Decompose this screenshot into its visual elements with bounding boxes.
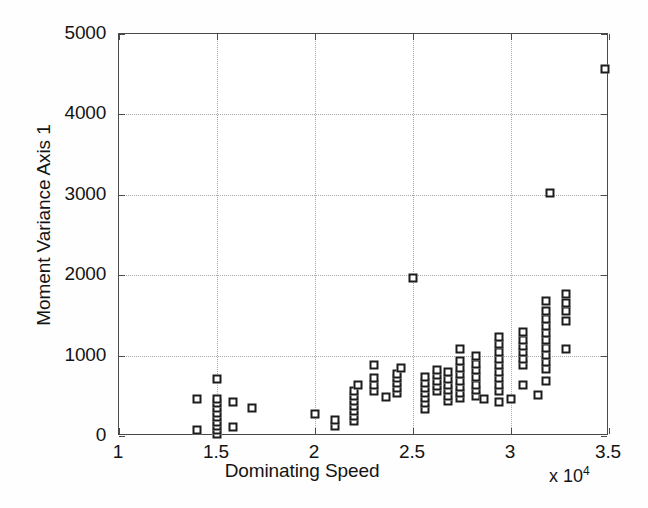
x-axis-tick — [413, 428, 414, 434]
data-point-marker — [213, 374, 222, 383]
data-point-marker — [471, 351, 480, 360]
data-point-marker — [193, 425, 202, 434]
data-point-marker — [479, 395, 488, 404]
x-axis-tick — [315, 34, 316, 40]
x-axis-tick — [511, 34, 512, 40]
y-axis-tick-label: 4000 — [0, 102, 106, 124]
data-point-marker — [248, 403, 257, 412]
data-point-marker — [561, 317, 570, 326]
data-point-marker — [456, 345, 465, 354]
y-axis-tick — [119, 275, 125, 276]
gridline-horizontal — [119, 275, 607, 276]
y-axis-tick — [119, 34, 125, 35]
data-point-marker — [330, 415, 339, 424]
data-point-marker — [369, 361, 378, 370]
y-axis-tick — [601, 356, 607, 357]
data-point-marker — [561, 290, 570, 299]
x-axis-tick — [315, 428, 316, 434]
data-point-marker — [561, 298, 570, 307]
data-point-marker — [507, 395, 516, 404]
data-point-marker — [518, 380, 527, 389]
x-axis-multiplier: x 104 — [549, 466, 590, 487]
x-axis-tick — [511, 428, 512, 434]
data-point-marker — [534, 390, 543, 399]
x-axis-tick-label: 1.5 — [203, 441, 229, 463]
y-axis-tick-label: 2000 — [0, 263, 106, 285]
y-axis-tick-label: 0 — [0, 424, 106, 446]
scatter-plot-figure: Moment Variance Axis 1 Dominating Speed … — [0, 0, 648, 508]
data-point-marker — [601, 64, 610, 73]
y-axis-tick — [601, 275, 607, 276]
data-point-marker — [369, 374, 378, 383]
data-point-marker — [495, 398, 504, 407]
data-point-marker — [542, 296, 551, 305]
y-axis-tick-label: 1000 — [0, 344, 106, 366]
x-axis-label-text: Dominating Speed — [225, 460, 380, 482]
y-axis-tick — [601, 436, 607, 437]
data-point-marker — [456, 357, 465, 366]
gridline-vertical — [315, 34, 316, 434]
y-axis-tick — [601, 114, 607, 115]
data-point-marker — [228, 398, 237, 407]
data-point-marker — [420, 373, 429, 382]
data-point-marker — [409, 273, 418, 282]
y-axis-tick — [119, 356, 125, 357]
data-point-marker — [542, 307, 551, 316]
x-axis-tick — [609, 428, 610, 434]
x-axis-tick — [119, 428, 120, 434]
x-axis-tick-label: 3 — [505, 441, 515, 463]
data-point-marker — [518, 328, 527, 337]
x-axis-tick — [217, 34, 218, 40]
data-point-marker — [444, 368, 453, 377]
data-point-marker — [311, 409, 320, 418]
data-point-marker — [397, 363, 406, 372]
gridline-horizontal — [119, 356, 607, 357]
x-axis-tick-label: 1 — [113, 441, 123, 463]
y-axis-tick — [119, 436, 125, 437]
plot-area — [118, 33, 608, 435]
data-point-marker — [561, 306, 570, 315]
data-point-marker — [354, 380, 363, 389]
data-point-marker — [193, 395, 202, 404]
y-axis-tick-label: 5000 — [0, 22, 106, 44]
x-axis-tick-label: 3.5 — [595, 441, 621, 463]
y-axis-tick — [601, 34, 607, 35]
data-point-marker — [495, 333, 504, 342]
x-axis-tick — [609, 34, 610, 40]
y-axis-tick-label: 3000 — [0, 183, 106, 205]
data-point-marker — [471, 359, 480, 368]
data-point-marker — [542, 377, 551, 386]
x-axis-tick — [413, 34, 414, 40]
data-point-marker — [228, 423, 237, 432]
data-point-marker — [561, 345, 570, 354]
data-point-marker — [432, 366, 441, 375]
y-axis-tick — [119, 195, 125, 196]
data-point-marker — [381, 392, 390, 401]
x-axis-tick-label: 2.5 — [399, 441, 425, 463]
gridline-horizontal — [119, 114, 607, 115]
y-axis-tick — [119, 114, 125, 115]
data-point-marker — [213, 395, 222, 404]
x-axis-tick-label: 2 — [309, 441, 319, 463]
y-axis-tick — [601, 195, 607, 196]
x-axis-multiplier-exponent: 4 — [583, 464, 590, 478]
data-point-marker — [546, 189, 555, 198]
gridline-vertical — [511, 34, 512, 434]
gridline-vertical — [413, 34, 414, 434]
gridline-horizontal — [119, 195, 607, 196]
x-axis-multiplier-base: x 10 — [549, 466, 583, 486]
